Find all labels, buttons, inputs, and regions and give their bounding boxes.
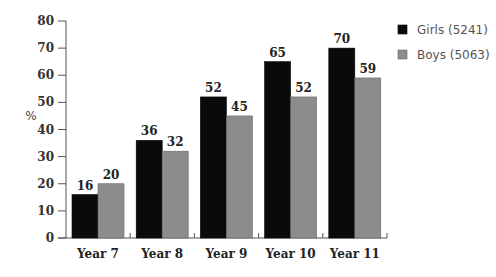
y-tick-label: 20 <box>37 177 54 191</box>
y-tick-label: 70 <box>37 41 54 55</box>
bar-boys <box>355 78 381 238</box>
x-category-label: Year 9 <box>205 247 248 261</box>
y-tick-label: 40 <box>37 123 54 137</box>
legend-swatch-girls <box>398 25 407 34</box>
x-category-label: Year 11 <box>329 247 380 261</box>
bar-value-label: 65 <box>269 46 286 60</box>
bar-value-label: 32 <box>167 135 184 149</box>
bar-value-label: 16 <box>77 179 94 193</box>
bar-boys <box>98 184 124 238</box>
y-tick-label: 30 <box>37 150 54 164</box>
bar-value-label: 20 <box>103 168 120 182</box>
bar-value-label: 59 <box>359 62 376 76</box>
y-axis-label: % <box>25 109 36 123</box>
bar-girls <box>136 140 162 238</box>
bar-boys <box>162 151 188 238</box>
x-category-label: Year 10 <box>265 247 316 261</box>
bar-value-label: 52 <box>205 81 222 95</box>
legend-label-girls: Girls (5241) <box>417 23 488 37</box>
legend: Girls (5241)Boys (5063) <box>398 23 490 62</box>
y-tick-label: 60 <box>37 68 54 82</box>
bar-chart: 01020304050607080%Year 7Year 8Year 9Year… <box>0 0 496 277</box>
bar-girls <box>200 97 226 238</box>
x-category-label: Year 8 <box>140 247 183 261</box>
y-tick-label: 0 <box>46 231 54 245</box>
y-tick-label: 10 <box>37 204 54 218</box>
y-tick-label: 50 <box>37 95 54 109</box>
y-tick-label: 80 <box>37 14 54 28</box>
bars: 16203632524565527059 <box>72 32 381 238</box>
bar-value-label: 45 <box>231 100 248 114</box>
bar-value-label: 36 <box>141 124 158 138</box>
legend-swatch-boys <box>398 50 407 59</box>
x-category-label: Year 7 <box>76 247 119 261</box>
bar-girls <box>265 62 291 238</box>
bar-value-label: 70 <box>333 32 350 46</box>
bar-girls <box>329 48 355 238</box>
bar-boys <box>291 97 317 238</box>
bar-boys <box>226 116 252 238</box>
bar-girls <box>72 195 98 238</box>
bar-value-label: 52 <box>295 81 312 95</box>
legend-label-boys: Boys (5063) <box>417 48 490 62</box>
